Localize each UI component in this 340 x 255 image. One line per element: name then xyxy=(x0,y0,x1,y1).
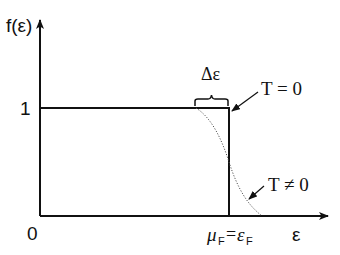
t0-label: T = 0 xyxy=(261,78,302,99)
y-tick-label-1: 1 xyxy=(20,98,31,119)
tnot0-pointer-arrow xyxy=(249,186,264,199)
delta-epsilon-brace xyxy=(195,95,228,106)
step-curve-t0 xyxy=(40,108,229,216)
t0-pointer-arrow xyxy=(232,92,258,111)
tnot0-label: T ≠ 0 xyxy=(268,174,309,195)
fermi-level-label: μ F = ε F xyxy=(206,224,253,247)
svg-text:=: = xyxy=(226,224,236,244)
fermi-dirac-diagram: f(ε) 1 0 ε Δε T = 0 T ≠ 0 μ F = ε F xyxy=(0,0,340,255)
svg-text:F: F xyxy=(246,235,253,247)
svg-text:F: F xyxy=(218,235,225,247)
svg-text:μ: μ xyxy=(206,224,217,245)
origin-label: 0 xyxy=(27,223,38,244)
y-axis-label: f(ε) xyxy=(6,15,32,36)
delta-epsilon-label: Δε xyxy=(201,64,221,84)
x-axis-label: ε xyxy=(292,224,301,245)
svg-text:ε: ε xyxy=(237,224,245,245)
